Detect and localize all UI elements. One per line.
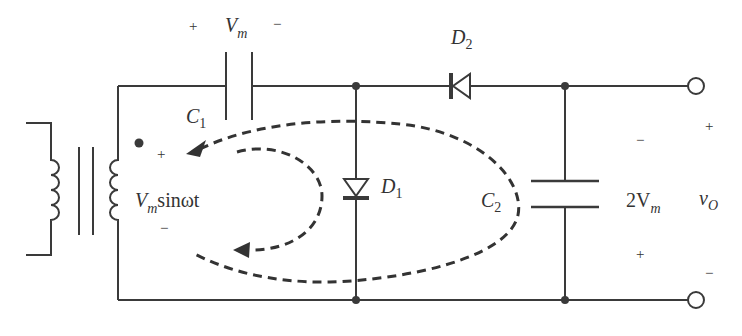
output-terminal-bottom — [688, 292, 704, 308]
diode-d1 — [343, 179, 369, 200]
junction-dot — [352, 82, 360, 90]
output-voltage-label: vO — [699, 187, 718, 213]
c2-label: C2 — [481, 189, 501, 215]
c1-minus: − — [273, 16, 281, 32]
source-plus: + — [157, 146, 165, 162]
primary-winding — [26, 123, 59, 255]
current-path-inner — [237, 149, 322, 250]
output-minus: − — [705, 265, 713, 281]
c2-plus: + — [636, 246, 644, 262]
polarity-dot — [135, 139, 144, 148]
circuit-diagram: + Vm − C1 + Vmsinωt − D2 D1 C2 − 2Vm + +… — [0, 0, 742, 336]
output-terminal-top — [688, 78, 704, 94]
c2-voltage-label: 2Vm — [626, 189, 661, 216]
arrow-head — [186, 140, 206, 157]
junction-dot — [561, 296, 569, 304]
junction-dot — [561, 82, 569, 90]
secondary-winding — [110, 86, 118, 300]
junction-dot — [352, 296, 360, 304]
c1-voltage-label: Vm — [225, 14, 247, 41]
source-voltage-label: Vmsinωt — [135, 189, 200, 216]
d2-label: D2 — [450, 26, 472, 52]
d1-label: D1 — [380, 175, 402, 201]
arrow-head — [233, 242, 250, 258]
output-plus: + — [705, 118, 713, 134]
source-minus: − — [160, 220, 168, 236]
c1-plus: + — [189, 18, 197, 34]
diode-d2 — [449, 73, 470, 99]
c2-minus: − — [636, 132, 644, 148]
c1-label: C1 — [186, 105, 206, 131]
